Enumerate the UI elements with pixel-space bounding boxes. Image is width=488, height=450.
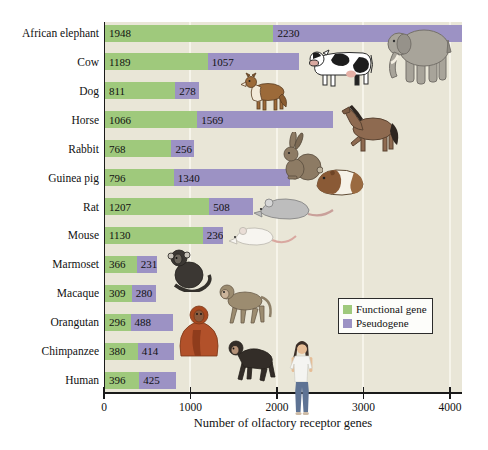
bar-value-label: 1057 [208, 56, 234, 68]
african-elephant-image [386, 22, 452, 86]
functional-gene-swatch-icon [343, 305, 352, 314]
bar-value-label: 508 [209, 201, 230, 213]
x-axis-tick [276, 387, 278, 399]
pseudogene-bar: 256 [171, 140, 193, 157]
bar-value-label: 2230 [273, 27, 299, 39]
functional-gene-bar: 1189 [105, 53, 208, 70]
bar-row: 11891057 [105, 53, 299, 70]
bar-value-label: 768 [105, 143, 126, 155]
bar-value-label: 811 [105, 85, 125, 97]
pseudogene-bar: 414 [138, 343, 174, 360]
bar-value-label: 396 [105, 374, 126, 386]
category-label-orangutan: Orangutan [0, 314, 99, 330]
functional-gene-bar: 1948 [105, 25, 273, 42]
pseudogene-bar: 1057 [208, 53, 299, 70]
pseudogene-bar: 425 [139, 372, 176, 389]
pseudogene-bar: 1340 [174, 169, 290, 186]
bar-value-label: 1207 [105, 201, 131, 213]
bar-value-label: 425 [139, 374, 160, 386]
category-label-chimpanzee: Chimpanzee [0, 343, 99, 359]
bar-row: 811278 [105, 82, 199, 99]
bar-row: 1207508 [105, 198, 253, 215]
legend-label: Pseudogene [356, 316, 409, 330]
functional-gene-bar: 796 [105, 169, 174, 186]
mouse-image [227, 221, 297, 250]
x-axis-line [103, 392, 462, 394]
bar-value-label: 414 [138, 345, 159, 357]
chimpanzee-image [224, 335, 280, 383]
marmoset-image [161, 247, 218, 292]
bar-value-label: 488 [131, 316, 152, 328]
x-tick-label: 4000 [420, 401, 480, 413]
orangutan-image [175, 304, 223, 358]
x-axis-tick [363, 387, 365, 399]
dog-image [241, 72, 288, 112]
category-label-horse: Horse [0, 112, 99, 128]
rat-image [254, 192, 334, 223]
horse-image [337, 103, 403, 153]
functional-gene-bar: 296 [105, 314, 131, 331]
functional-gene-bar: 1130 [105, 227, 203, 244]
bar-value-label: 296 [105, 316, 126, 328]
bar-value-label: 236 [203, 229, 223, 241]
bar-value-label: 1066 [105, 114, 131, 126]
macaque-image [217, 277, 275, 327]
pseudogene-bar: 1569 [197, 111, 333, 128]
legend-item-functional-gene: Functional gene [343, 302, 427, 316]
x-axis-tick [449, 387, 451, 399]
pseudogene-bar: 280 [132, 285, 156, 302]
human-image [287, 341, 317, 417]
category-label-human: Human [0, 372, 99, 388]
bar-row: 296488 [105, 314, 173, 331]
bar-value-label: 1948 [105, 27, 131, 39]
bar-value-label: 1130 [105, 229, 131, 241]
functional-gene-bar: 811 [105, 82, 175, 99]
category-label-macaque: Macaque [0, 285, 99, 301]
bar-row: 396425 [105, 372, 176, 389]
category-label-guinea-pig: Guinea pig [0, 170, 99, 186]
bar-value-label: 1569 [197, 114, 223, 126]
x-axis-tick [190, 387, 192, 399]
category-label-cow: Cow [0, 54, 99, 70]
bar-row: 1130236 [105, 227, 223, 244]
bar-value-label: 796 [105, 172, 126, 184]
pseudogene-bar: 278 [175, 82, 199, 99]
bar-row: 366231 [105, 256, 157, 273]
functional-gene-bar: 366 [105, 256, 137, 273]
x-tick-label: 3000 [333, 401, 393, 413]
bar-row: 380414 [105, 343, 174, 360]
bar-row: 10661569 [105, 111, 333, 128]
bar-row: 7961340 [105, 169, 290, 186]
bar-row: 309280 [105, 285, 156, 302]
legend: Functional gene Pseudogene [338, 298, 433, 334]
functional-gene-bar: 1066 [105, 111, 197, 128]
olfactory-receptor-gene-chart: African elephantCowDogHorseRabbitGuinea … [0, 0, 488, 450]
pseudogene-bar: 236 [203, 227, 223, 244]
category-label-african-elephant: African elephant [0, 25, 99, 41]
functional-gene-bar: 309 [105, 285, 132, 302]
functional-gene-bar: 768 [105, 140, 171, 157]
functional-gene-bar: 396 [105, 372, 139, 389]
functional-gene-bar: 1207 [105, 198, 209, 215]
pseudogene-bar: 231 [137, 256, 157, 273]
bar-value-label: 256 [171, 143, 192, 155]
bar-value-label: 1189 [105, 56, 131, 68]
pseudogene-bar: 508 [209, 198, 253, 215]
y-axis-line [104, 22, 106, 394]
category-label-marmoset: Marmoset [0, 256, 99, 272]
bar-value-label: 280 [132, 287, 153, 299]
cow-image [307, 47, 379, 89]
bar-value-label: 278 [175, 85, 196, 97]
category-label-mouse: Mouse [0, 227, 99, 243]
bar-value-label: 380 [105, 345, 126, 357]
bar-value-label: 366 [105, 258, 126, 270]
pseudogene-swatch-icon [343, 319, 352, 328]
x-axis-label: Number of olfactory receptor genes [104, 416, 462, 431]
bar-row: 768256 [105, 140, 194, 157]
category-label-dog: Dog [0, 83, 99, 99]
legend-item-pseudogene: Pseudogene [343, 316, 427, 330]
bar-value-label: 309 [105, 287, 126, 299]
functional-gene-bar: 380 [105, 343, 138, 360]
bar-value-label: 231 [137, 258, 157, 270]
pseudogene-bar: 488 [131, 314, 173, 331]
